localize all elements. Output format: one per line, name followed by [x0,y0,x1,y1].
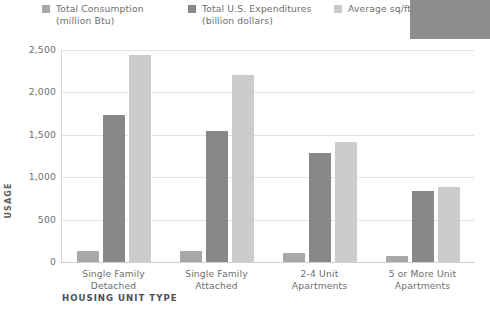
bar[interactable] [180,251,202,262]
y-tick-label: 500 [10,214,56,225]
legend-label-average-sqft: Average sq/ft [348,3,411,15]
bar[interactable] [335,142,357,262]
legend-label-total-consumption: Total Consumption (million Btu) [56,3,144,26]
bar-group [371,50,474,262]
x-tick-label: 2-4 Unit Apartments [268,268,371,291]
x-tick-label: Single Family Detached [62,268,165,291]
bar[interactable] [386,256,408,262]
y-tick-label: 1,500 [10,129,56,140]
bar[interactable] [103,115,125,262]
y-tick-label: 0 [10,256,56,267]
bar-group [268,50,371,262]
occluding-gray-block [410,0,490,39]
x-axis-line [61,262,475,263]
y-axis-tick-labels: 05001,0001,5002,0002,500 [8,0,56,315]
y-tick-label: 2,500 [10,44,56,55]
legend-label-total-us-expenditures: Total U.S. Expenditures (billion dollars… [202,3,312,26]
legend-item-average-sqft[interactable]: Average sq/ft [334,3,411,15]
x-tick-label: Single Family Attached [165,268,268,291]
legend-swatch-total-us-expenditures [188,5,196,13]
bar[interactable] [206,131,228,262]
bar[interactable] [283,253,305,262]
x-axis-title: HOUSING UNIT TYPE [62,293,178,303]
bar[interactable] [438,187,460,262]
y-axis-title: USAGE [4,171,13,231]
legend-item-total-us-expenditures[interactable]: Total U.S. Expenditures (billion dollars… [188,3,312,26]
legend-item-total-consumption[interactable]: Total Consumption (million Btu) [42,3,144,26]
plot-area [62,50,474,262]
bar[interactable] [412,191,434,262]
bar[interactable] [129,55,151,262]
x-tick-label: 5 or More Unit Apartments [371,268,474,291]
bar-group [165,50,268,262]
bar[interactable] [232,75,254,262]
y-tick-label: 1,000 [10,171,56,182]
bar-group [62,50,165,262]
bar[interactable] [77,251,99,262]
legend-swatch-average-sqft [334,5,342,13]
y-tick-label: 2,000 [10,86,56,97]
bar-chart: Total Consumption (million Btu) Total U.… [0,0,490,315]
bar[interactable] [309,153,331,262]
